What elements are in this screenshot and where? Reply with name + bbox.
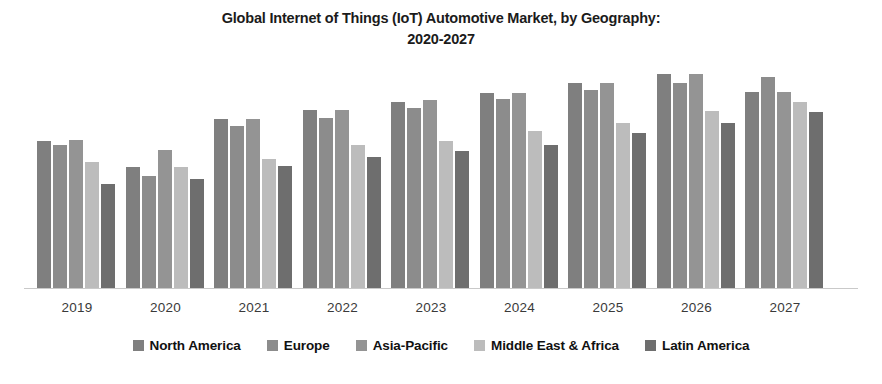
bar-2020-north-america[interactable] bbox=[126, 167, 140, 288]
bar-2023-north-america[interactable] bbox=[391, 102, 405, 288]
chart-legend: North AmericaEuropeAsia-PacificMiddle Ea… bbox=[0, 338, 882, 353]
bar-2025-middle-east-africa[interactable] bbox=[616, 123, 630, 288]
bar-group-2020 bbox=[126, 56, 206, 288]
x-tick-label-2023: 2023 bbox=[391, 300, 471, 315]
x-tick-label-2021: 2021 bbox=[214, 300, 294, 315]
bar-2026-asia-pacific[interactable] bbox=[689, 74, 703, 288]
bar-2026-europe[interactable] bbox=[673, 83, 687, 288]
bar-2022-north-america[interactable] bbox=[303, 110, 317, 288]
bar-group-2019 bbox=[37, 56, 117, 288]
legend-label: Latin America bbox=[662, 338, 749, 353]
bar-2022-middle-east-africa[interactable] bbox=[351, 145, 365, 288]
x-tick-label-2027: 2027 bbox=[745, 300, 825, 315]
legend-swatch-icon bbox=[356, 340, 367, 351]
bar-group-2021 bbox=[214, 56, 294, 288]
x-tick-label-2024: 2024 bbox=[480, 300, 560, 315]
bar-2025-asia-pacific[interactable] bbox=[600, 83, 614, 288]
bar-2027-latin-america[interactable] bbox=[809, 112, 823, 288]
bar-2023-middle-east-africa[interactable] bbox=[439, 141, 453, 288]
bar-2021-asia-pacific[interactable] bbox=[246, 119, 260, 288]
bar-2024-asia-pacific[interactable] bbox=[512, 93, 526, 288]
legend-item-middle-east-africa[interactable]: Middle East & Africa bbox=[474, 338, 619, 353]
x-tick-label-2025: 2025 bbox=[568, 300, 648, 315]
bar-2024-latin-america[interactable] bbox=[544, 145, 558, 288]
legend-item-europe[interactable]: Europe bbox=[267, 338, 330, 353]
legend-label: North America bbox=[150, 338, 241, 353]
x-tick-label-2019: 2019 bbox=[37, 300, 117, 315]
bar-2025-latin-america[interactable] bbox=[632, 133, 646, 288]
bar-2019-europe[interactable] bbox=[53, 145, 67, 288]
bar-2021-latin-america[interactable] bbox=[278, 166, 292, 288]
chart-figure: Global Internet of Things (IoT) Automoti… bbox=[0, 0, 882, 384]
bar-group-2025 bbox=[568, 56, 648, 288]
bar-2021-europe[interactable] bbox=[230, 126, 244, 288]
x-axis-baseline bbox=[24, 288, 858, 289]
bar-2026-latin-america[interactable] bbox=[721, 123, 735, 288]
bar-2022-asia-pacific[interactable] bbox=[335, 110, 349, 288]
bar-2020-europe[interactable] bbox=[142, 176, 156, 288]
legend-label: Asia-Pacific bbox=[373, 338, 448, 353]
bar-2024-middle-east-africa[interactable] bbox=[528, 131, 542, 288]
legend-item-north-america[interactable]: North America bbox=[133, 338, 241, 353]
legend-swatch-icon bbox=[133, 340, 144, 351]
bar-group-2026 bbox=[657, 56, 737, 288]
bar-2019-asia-pacific[interactable] bbox=[69, 140, 83, 288]
legend-swatch-icon bbox=[645, 340, 656, 351]
plot-area: 201920202021202220232024202520262027 bbox=[0, 0, 882, 384]
bar-group-2024 bbox=[480, 56, 560, 288]
bar-2025-europe[interactable] bbox=[584, 90, 598, 288]
legend-label: Europe bbox=[284, 338, 330, 353]
bar-2025-north-america[interactable] bbox=[568, 83, 582, 288]
bar-2019-latin-america[interactable] bbox=[101, 184, 115, 288]
legend-item-latin-america[interactable]: Latin America bbox=[645, 338, 749, 353]
bar-2024-europe[interactable] bbox=[496, 99, 510, 288]
bar-group-2027 bbox=[745, 56, 825, 288]
bar-group-2022 bbox=[303, 56, 383, 288]
bar-2027-asia-pacific[interactable] bbox=[777, 92, 791, 288]
x-tick-label-2026: 2026 bbox=[657, 300, 737, 315]
legend-label: Middle East & Africa bbox=[491, 338, 619, 353]
legend-swatch-icon bbox=[267, 340, 278, 351]
legend-item-asia-pacific[interactable]: Asia-Pacific bbox=[356, 338, 448, 353]
bar-2027-middle-east-africa[interactable] bbox=[793, 102, 807, 288]
bar-2019-north-america[interactable] bbox=[37, 141, 51, 288]
bar-2023-latin-america[interactable] bbox=[455, 151, 469, 288]
bar-2021-middle-east-africa[interactable] bbox=[262, 159, 276, 288]
bar-2027-north-america[interactable] bbox=[745, 92, 759, 288]
bar-2019-middle-east-africa[interactable] bbox=[85, 162, 99, 288]
bar-2020-asia-pacific[interactable] bbox=[158, 150, 172, 288]
bar-2020-latin-america[interactable] bbox=[190, 179, 204, 288]
bar-2023-europe[interactable] bbox=[407, 108, 421, 288]
x-tick-label-2020: 2020 bbox=[126, 300, 206, 315]
legend-swatch-icon bbox=[474, 340, 485, 351]
bar-2026-north-america[interactable] bbox=[657, 74, 671, 288]
bar-2027-europe[interactable] bbox=[761, 77, 775, 288]
bar-group-2023 bbox=[391, 56, 471, 288]
bar-2024-north-america[interactable] bbox=[480, 93, 494, 288]
bar-2022-latin-america[interactable] bbox=[367, 157, 381, 288]
bar-2020-middle-east-africa[interactable] bbox=[174, 167, 188, 288]
bar-2026-middle-east-africa[interactable] bbox=[705, 111, 719, 288]
x-tick-label-2022: 2022 bbox=[303, 300, 383, 315]
bar-2022-europe[interactable] bbox=[319, 118, 333, 288]
bar-2023-asia-pacific[interactable] bbox=[423, 100, 437, 288]
bar-2021-north-america[interactable] bbox=[214, 119, 228, 288]
